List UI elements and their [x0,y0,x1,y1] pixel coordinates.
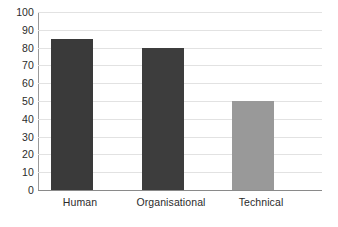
x-axis-baseline [38,190,322,191]
y-tick-label: 70 [2,60,34,70]
bar-technical[interactable] [232,101,274,190]
x-tick-label-technical: Technical [203,196,319,208]
y-tick-label: 50 [2,96,34,106]
y-tick-label: 0 [2,185,34,195]
y-tick-label: 80 [2,43,34,53]
y-tick-label: 10 [2,167,34,177]
y-tick-label: 30 [2,132,34,142]
y-tick-label: 90 [2,25,34,35]
bar-organisational[interactable] [142,48,184,190]
bars-layer [38,12,322,190]
y-tick-label: 20 [2,149,34,159]
x-axis-tick-labels: Human Organisational Technical [38,196,322,216]
y-tick-label: 100 [2,7,34,17]
y-tick-label: 60 [2,78,34,88]
y-tick-label: 40 [2,114,34,124]
bar-chart: 100 90 80 70 60 50 40 30 20 10 0 Human [0,0,338,227]
plot-area [38,12,322,190]
y-axis-tick-labels: 100 90 80 70 60 50 40 30 20 10 0 [0,0,34,227]
bar-human[interactable] [51,39,93,190]
